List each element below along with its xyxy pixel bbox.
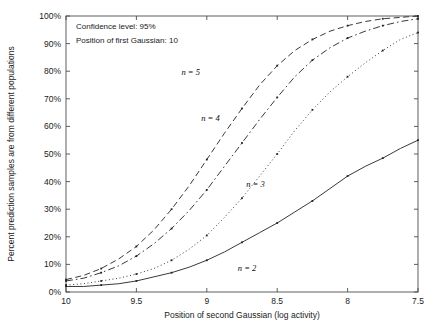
curve-n-5 xyxy=(66,16,418,280)
y-tick-label: 100% xyxy=(39,11,61,21)
data-marker xyxy=(347,25,349,27)
data-marker xyxy=(347,76,349,78)
y-tick-label: 80% xyxy=(44,66,61,76)
data-marker xyxy=(100,272,102,274)
y-tick-label: 90% xyxy=(44,39,61,49)
data-marker xyxy=(136,273,138,275)
data-marker xyxy=(382,50,384,52)
data-marker xyxy=(171,259,173,261)
data-marker xyxy=(206,189,208,191)
data-marker xyxy=(100,280,102,282)
data-marker xyxy=(312,200,314,202)
y-tick-label: 70% xyxy=(44,94,61,104)
y-tick-label: 20% xyxy=(44,232,61,242)
x-tick-label: 8.5 xyxy=(271,296,283,306)
x-tick-label: 10 xyxy=(61,296,71,306)
x-tick-label: 9.5 xyxy=(130,296,142,306)
data-marker xyxy=(136,246,138,248)
data-marker xyxy=(417,18,419,20)
x-tick-label: 9 xyxy=(204,296,209,306)
data-marker xyxy=(171,272,173,274)
data-marker xyxy=(206,159,208,161)
data-marker xyxy=(136,280,138,282)
data-marker xyxy=(206,235,208,237)
data-marker xyxy=(312,59,314,61)
data-marker xyxy=(382,157,384,159)
data-marker xyxy=(241,142,243,144)
data-marker xyxy=(276,65,278,67)
data-marker xyxy=(136,255,138,257)
chart-canvas: 0%10%20%30%40%50%60%70%80%90%100%109.598… xyxy=(0,0,433,331)
annotation-first-gaussian: Position of first Gaussian: 10 xyxy=(76,36,178,45)
y-tick-label: 10% xyxy=(44,259,61,269)
data-marker xyxy=(276,222,278,224)
data-marker xyxy=(241,108,243,110)
data-marker xyxy=(276,97,278,99)
data-marker xyxy=(241,197,243,199)
series-label-n-5: n = 5 xyxy=(181,67,200,77)
figure-container: 0%10%20%30%40%50%60%70%80%90%100%109.598… xyxy=(0,0,433,331)
series-label-n-3: n = 3 xyxy=(246,179,265,189)
data-marker xyxy=(276,153,278,155)
data-marker xyxy=(347,37,349,39)
y-tick-label: 0% xyxy=(49,287,62,297)
y-tick-label: 50% xyxy=(44,149,61,159)
data-marker xyxy=(65,279,67,281)
data-marker xyxy=(312,39,314,41)
data-marker xyxy=(417,15,419,17)
x-axis-title: Position of second Gaussian (log activit… xyxy=(164,310,320,320)
data-marker xyxy=(382,25,384,27)
data-marker xyxy=(171,228,173,230)
y-axis-title: Percent prediction samples are from diff… xyxy=(6,46,16,261)
x-tick-label: 8 xyxy=(345,296,350,306)
data-marker xyxy=(347,175,349,177)
data-marker xyxy=(171,208,173,210)
annotation-confidence-level: Confidence level: 95% xyxy=(76,22,156,31)
y-tick-label: 60% xyxy=(44,121,61,131)
data-marker xyxy=(417,32,419,34)
data-marker xyxy=(382,18,384,20)
series-label-n-4: n = 4 xyxy=(201,113,220,123)
curve-n-3 xyxy=(66,33,418,286)
data-marker xyxy=(100,268,102,270)
data-marker xyxy=(241,241,243,243)
plot-frame xyxy=(66,16,418,292)
data-marker xyxy=(312,109,314,111)
y-tick-label: 30% xyxy=(44,204,61,214)
data-marker xyxy=(100,284,102,286)
data-marker xyxy=(417,139,419,141)
x-tick-label: 7.5 xyxy=(412,296,424,306)
y-tick-label: 40% xyxy=(44,177,61,187)
series-label-n-2: n = 2 xyxy=(238,263,257,273)
data-marker xyxy=(206,259,208,261)
data-marker xyxy=(65,284,67,286)
